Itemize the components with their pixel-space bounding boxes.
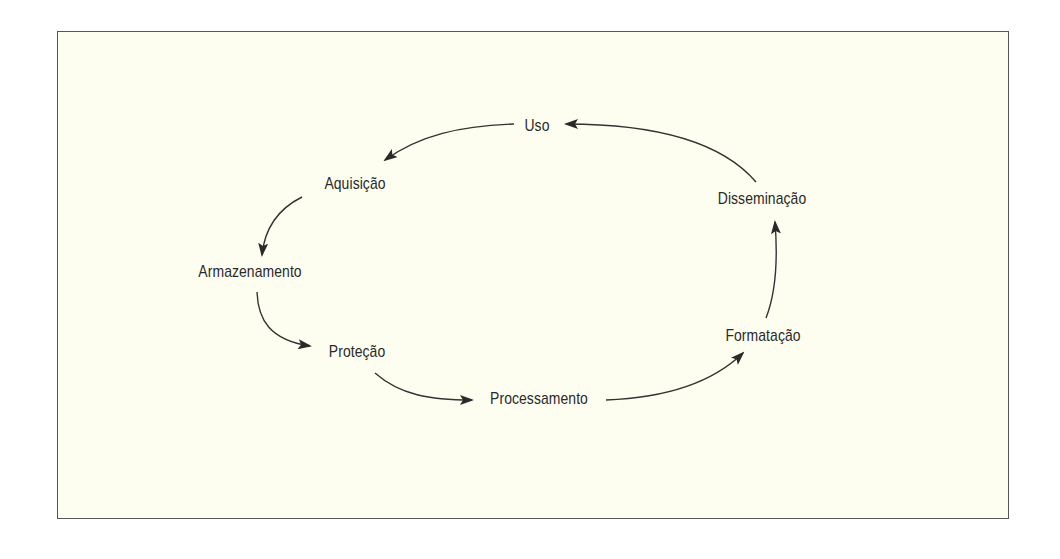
node-disseminacao: Disseminação [718,189,807,209]
node-uso: Uso [524,116,549,136]
arrow-uso-to-aquisicao [385,124,514,160]
arrow-processamento-to-formatacao [606,353,743,400]
node-armazenamento: Armazenamento [198,262,301,282]
node-protecao: Proteção [329,342,385,362]
arrow-disseminacao-to-uso [566,124,756,182]
node-processamento: Processamento [490,389,588,409]
arrow-protecao-to-processamento [375,373,472,400]
node-formatacao: Formatação [725,326,800,346]
node-aquisicao: Aquisição [324,174,385,194]
arrow-formatacao-to-disseminacao [766,222,776,318]
cycle-arrows [0,0,1060,559]
arrow-armazenamento-to-protecao [257,292,310,346]
arrow-aquisicao-to-armazenamento [262,197,302,255]
